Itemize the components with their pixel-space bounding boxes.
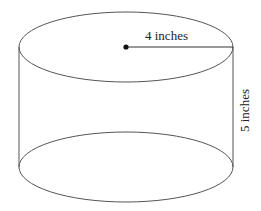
center-dot — [123, 44, 128, 49]
cylinder-diagram: 4 inches 5 inches — [0, 0, 261, 211]
height-label: 5 inches — [237, 89, 252, 132]
bottom-ellipse — [19, 132, 233, 202]
radius-label: 4 inches — [145, 28, 188, 43]
